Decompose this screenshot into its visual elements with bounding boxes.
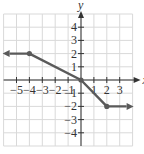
vertex-point [104, 104, 109, 109]
y-tick-label: −2 [64, 99, 77, 113]
y-tick-label: 3 [71, 33, 77, 47]
x-axis-arrow-icon [134, 77, 141, 83]
x-tick-label: −4 [23, 83, 36, 97]
x-tick-label: −3 [36, 83, 49, 97]
y-tick-label: −1 [64, 86, 77, 100]
x-tick-label: 2 [104, 83, 110, 97]
y-tick-label: 1 [71, 60, 77, 74]
y-tick-label: 2 [71, 47, 77, 61]
x-tick-label: 3 [117, 83, 123, 97]
vertex-point [78, 77, 83, 82]
y-tick-label: −4 [64, 126, 77, 140]
x-axis-label: x [142, 73, 144, 87]
vertex-point [27, 51, 32, 56]
y-tick-label: −3 [64, 113, 77, 127]
y-tick-label: 4 [71, 20, 77, 34]
x-tick-label: −5 [10, 83, 23, 97]
x-tick-label: −2 [49, 83, 62, 97]
y-axis-label: y [77, 0, 84, 12]
piecewise-graph: xy−5−4−3−2−11234321−1−2−3−4 [0, 0, 144, 154]
